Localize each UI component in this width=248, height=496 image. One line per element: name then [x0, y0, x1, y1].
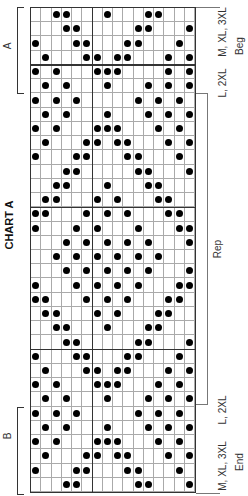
chart-cell [123, 449, 133, 463]
chart-cell [164, 250, 174, 264]
chart-cell [41, 108, 51, 122]
chart-row [31, 321, 195, 335]
chart-cell [123, 478, 133, 492]
chart-cell [164, 364, 174, 378]
chart-cell [144, 250, 154, 264]
chart-cell [144, 264, 154, 278]
chart-cell [123, 222, 133, 236]
chart-cell [31, 236, 41, 250]
chart-cell [175, 321, 185, 335]
dot-symbol-icon [186, 282, 193, 289]
chart-cell [154, 193, 164, 207]
chart-cell [41, 179, 51, 193]
chart-cell [62, 193, 72, 207]
chart-cell [175, 22, 185, 36]
chart-cell [175, 407, 185, 421]
dot-symbol-icon [32, 282, 39, 289]
chart-cell [113, 51, 123, 65]
chart-cell [185, 193, 195, 207]
chart-cell [52, 22, 62, 36]
chart-cell [185, 222, 195, 236]
chart-cell [52, 65, 62, 79]
chart-cell [52, 222, 62, 236]
chart-cell [62, 79, 72, 93]
chart-cell [144, 207, 154, 221]
chart-cell [93, 307, 103, 321]
dot-symbol-icon [42, 310, 49, 317]
dot-symbol-icon [53, 324, 60, 331]
dot-symbol-icon [186, 267, 193, 274]
chart-cell [185, 364, 195, 378]
chart-cell [123, 350, 133, 364]
chart-cell [164, 335, 174, 349]
chart-cell [31, 222, 41, 236]
chart-cell [103, 350, 113, 364]
chart-cell [62, 392, 72, 406]
chart-cell [185, 136, 195, 150]
chart-cell [185, 464, 195, 478]
dot-symbol-icon [124, 267, 131, 274]
chart-row [31, 407, 195, 421]
chart-cell [134, 478, 144, 492]
chart-cell [185, 150, 195, 164]
dot-symbol-icon [186, 339, 193, 346]
dot-symbol-icon [94, 381, 101, 388]
chart-cell [41, 335, 51, 349]
dot-symbol-icon [94, 196, 101, 203]
chart-cell [103, 236, 113, 250]
chart-cell [144, 350, 154, 364]
chart-row [31, 108, 195, 122]
chart-row [31, 22, 195, 36]
dot-symbol-icon [145, 82, 152, 89]
dot-symbol-icon [165, 82, 172, 89]
chart-cell [113, 65, 123, 79]
chart-cell [62, 165, 72, 179]
dot-symbol-icon [155, 11, 162, 18]
chart-cell [31, 335, 41, 349]
dot-symbol-icon [73, 25, 80, 32]
chart-cell [123, 236, 133, 250]
chart-cell [72, 79, 82, 93]
chart-cell [175, 236, 185, 250]
dot-symbol-icon [176, 125, 183, 132]
chart-cell [123, 8, 133, 22]
dot-symbol-icon [94, 438, 101, 445]
chart-row [31, 165, 195, 179]
chart-cell [164, 264, 174, 278]
chart-cell [113, 122, 123, 136]
chart-cell [72, 278, 82, 292]
chart-cell [72, 93, 82, 107]
chart-cell [31, 350, 41, 364]
chart-cell [103, 51, 113, 65]
chart-cell [41, 350, 51, 364]
dot-symbol-icon [104, 82, 111, 89]
chart-cell [72, 150, 82, 164]
dot-symbol-icon [165, 296, 172, 303]
chart-cell [62, 93, 72, 107]
dot-symbol-icon [63, 111, 70, 118]
chart-cell [113, 350, 123, 364]
chart-cell [164, 236, 174, 250]
chart-cell [154, 478, 164, 492]
chart-cell [41, 8, 51, 22]
chart-cell [144, 321, 154, 335]
chart-cell [31, 293, 41, 307]
chart-cell [103, 165, 113, 179]
chart-cell [134, 307, 144, 321]
dot-symbol-icon [165, 452, 172, 459]
chart-cell [175, 222, 185, 236]
dot-symbol-icon [104, 395, 111, 402]
chart-cell [185, 278, 195, 292]
chart-cell [41, 378, 51, 392]
chart-cell [93, 478, 103, 492]
chart-cell [52, 335, 62, 349]
bracket-a [17, 7, 24, 94]
dot-symbol-icon [73, 481, 80, 488]
chart-cell [103, 464, 113, 478]
dot-symbol-icon [83, 267, 90, 274]
dot-symbol-icon [63, 481, 70, 488]
chart-cell [123, 193, 133, 207]
chart-cell [72, 22, 82, 36]
chart-cell [154, 222, 164, 236]
dot-symbol-icon [94, 282, 101, 289]
